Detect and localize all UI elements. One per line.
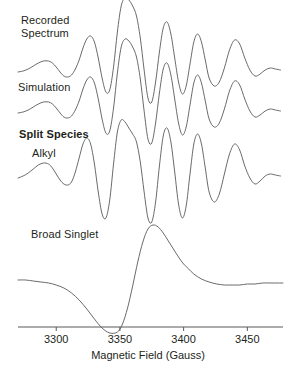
x-axis-tick-label: 3350 xyxy=(108,333,132,345)
trace-label-split-species: Split Species xyxy=(19,128,89,141)
x-axis-ticks xyxy=(56,327,247,331)
epr-spectrum-figure: Recorded Spectrum Simulation Split Speci… xyxy=(0,0,297,373)
trace-label-alkyl: Alkyl xyxy=(32,147,56,160)
trace-label-broad-singlet: Broad Singlet xyxy=(31,228,98,241)
trace-lines-group xyxy=(18,0,283,333)
x-axis-group xyxy=(18,327,283,331)
x-axis-tick-label: 3400 xyxy=(171,333,195,345)
x-axis-tick-label: 3450 xyxy=(235,333,259,345)
x-axis-tick-label: 3300 xyxy=(44,333,68,345)
spectrum-trace-broad-singlet xyxy=(18,225,283,333)
spectrum-plot xyxy=(0,0,297,373)
recorded-spectrum-line1: Recorded xyxy=(21,14,70,27)
trace-label-simulation: Simulation xyxy=(18,81,70,94)
trace-label-recorded-spectrum: Recorded Spectrum xyxy=(21,14,70,40)
recorded-spectrum-line2: Spectrum xyxy=(21,27,70,40)
x-axis-title: Magnetic Field (Gauss) xyxy=(91,349,205,361)
